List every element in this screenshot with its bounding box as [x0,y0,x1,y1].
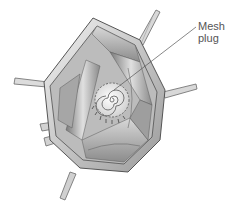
retractor-top [138,10,160,45]
retractor-right [163,84,197,98]
retractor-bottom [60,172,76,200]
mesh-plug [95,83,129,117]
mesh-plug-label: Mesh plug [198,20,225,44]
mesh-plug-label-line1: Mesh [198,20,225,32]
mesh-plug-label-line2: plug [198,32,225,44]
